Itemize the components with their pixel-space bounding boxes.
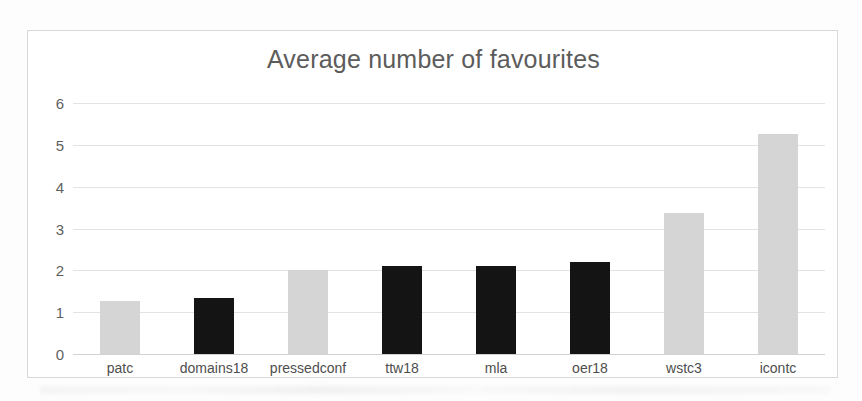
- bar-icontc: [758, 134, 798, 354]
- bar-pressedconf: [288, 270, 328, 354]
- y-axis-tick-label: 2: [56, 262, 64, 279]
- bar-ttw18: [382, 266, 422, 354]
- x-axis-tick-label-ttw18: ttw18: [385, 360, 418, 376]
- bar-wstc3: [664, 213, 704, 354]
- plot-area: 6543210 patcdomains18pressedconfttw18mla…: [73, 103, 825, 354]
- bar-patc: [100, 301, 140, 354]
- y-axis-tick-label: 5: [56, 136, 64, 153]
- gridline-y-0: [73, 354, 825, 355]
- scan-artifact-line: [40, 386, 830, 394]
- x-axis-tick-label-icontc: icontc: [760, 360, 797, 376]
- x-axis-tick-label-wstc3: wstc3: [666, 360, 702, 376]
- y-axis-tick-label: 6: [56, 95, 64, 112]
- x-axis-tick-label-patc: patc: [107, 360, 133, 376]
- y-axis-tick-label: 3: [56, 220, 64, 237]
- bar-mla: [476, 266, 516, 354]
- x-axis-tick-label-mla: mla: [485, 360, 508, 376]
- x-axis-tick-label-oer18: oer18: [572, 360, 608, 376]
- bar-chart-frame: Average number of favourites 6543210 pat…: [27, 30, 838, 378]
- y-axis-tick-label: 1: [56, 304, 64, 321]
- x-axis-tick-label-domains18: domains18: [180, 360, 249, 376]
- x-axis-tick-label-pressedconf: pressedconf: [270, 360, 346, 376]
- bar-oer18: [570, 262, 610, 354]
- y-axis-tick-label: 4: [56, 178, 64, 195]
- y-axis-tick-label: 0: [56, 346, 64, 363]
- chart-title: Average number of favourites: [28, 45, 839, 74]
- bar-domains18: [194, 298, 234, 354]
- bars-layer: patcdomains18pressedconfttw18mlaoer18wst…: [73, 103, 825, 354]
